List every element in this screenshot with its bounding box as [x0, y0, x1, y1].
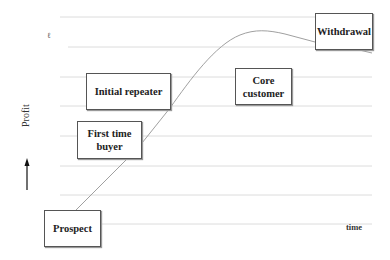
stage-initial-repeater: Initial repeater [86, 73, 171, 110]
stray-mark: ℓ [47, 31, 51, 40]
x-axis-label: time [346, 222, 362, 232]
profit-arrow-icon [25, 158, 30, 190]
stage-first-time-buyer: First time buyer [77, 121, 142, 159]
stage-withdrawal: Withdrawal [315, 13, 373, 50]
stage-prospect: Prospect [44, 210, 101, 247]
stage-core-customer: Core customer [235, 68, 292, 105]
y-axis-label: Profit [17, 98, 33, 134]
